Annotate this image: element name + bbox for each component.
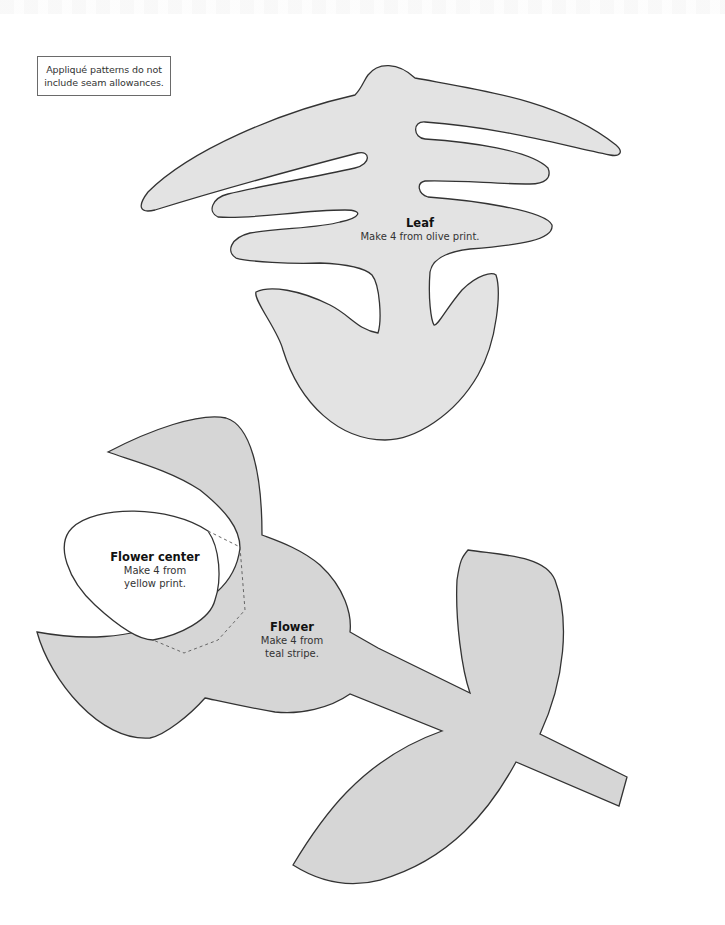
flower-instruction-1: Make 4 from [232, 634, 352, 647]
flower-instruction-2: teal stripe. [232, 647, 352, 660]
leaf-instruction: Make 4 from olive print. [330, 230, 510, 243]
flower-center-label: Flower center Make 4 from yellow print. [95, 550, 215, 590]
leaf-shape [141, 66, 620, 440]
flower-center-instruction-2: yellow print. [95, 577, 215, 590]
flower-center-title: Flower center [95, 550, 215, 564]
leaf-label: Leaf Make 4 from olive print. [330, 216, 510, 243]
applique-pattern-art [0, 0, 725, 925]
leaf-title: Leaf [330, 216, 510, 230]
flower-center-instruction-1: Make 4 from [95, 564, 215, 577]
flower-label: Flower Make 4 from teal stripe. [232, 620, 352, 660]
flower-title: Flower [232, 620, 352, 634]
